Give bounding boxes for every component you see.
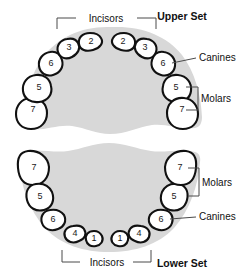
lower-tooth-number-7-left: 7 (31, 162, 36, 172)
lower-tooth-number-1-left: 1 (91, 233, 96, 243)
lower-canines-label: Canines (199, 211, 236, 222)
lower-tooth-number-4-left: 4 (72, 228, 77, 238)
upper-tooth-number-6-right: 6 (160, 58, 165, 68)
lower-set-group: 7 5 6 4 1 1 4 6 5 7 Molars Canines Incis… (18, 143, 236, 269)
upper-canines-label: Canines (199, 52, 236, 63)
lower-tooth-number-7-right: 7 (177, 162, 182, 172)
lower-tooth-number-4-right: 4 (136, 228, 141, 238)
upper-set-group: 7 5 6 3 2 2 3 6 5 7 Incisors Canines Mol… (16, 10, 236, 134)
dental-chart-svg: 7 5 6 3 2 2 3 6 5 7 Incisors Canines Mol… (0, 0, 241, 278)
upper-tooth-number-7-left: 7 (30, 104, 35, 114)
lower-tooth-number-6-left: 6 (50, 214, 55, 224)
upper-tooth-number-6-left: 6 (48, 58, 53, 68)
lower-molars-label: Molars (202, 177, 232, 188)
upper-tooth-number-2-left: 2 (88, 36, 93, 46)
upper-tooth-number-3-right: 3 (142, 42, 147, 52)
upper-tooth-number-3-left: 3 (66, 42, 71, 52)
lower-set-title: Lower Set (157, 257, 208, 269)
upper-tooth-number-2-right: 2 (120, 36, 125, 46)
upper-molars-label: Molars (201, 93, 231, 104)
lower-tooth-number-6-right: 6 (158, 214, 163, 224)
lower-tooth-number-5-right: 5 (171, 191, 176, 201)
lower-tooth-number-5-left: 5 (37, 191, 42, 201)
upper-tooth-number-7-right: 7 (179, 104, 184, 114)
upper-set-title: Upper Set (157, 10, 207, 22)
upper-tooth-number-5-right: 5 (173, 82, 178, 92)
dental-chart-diagram: 7 5 6 3 2 2 3 6 5 7 Incisors Canines Mol… (0, 0, 241, 278)
upper-incisors-label: Incisors (89, 13, 123, 24)
upper-tooth-number-5-left: 5 (36, 82, 41, 92)
lower-incisors-label: Incisors (90, 257, 124, 268)
lower-tooth-number-1-right: 1 (117, 233, 122, 243)
